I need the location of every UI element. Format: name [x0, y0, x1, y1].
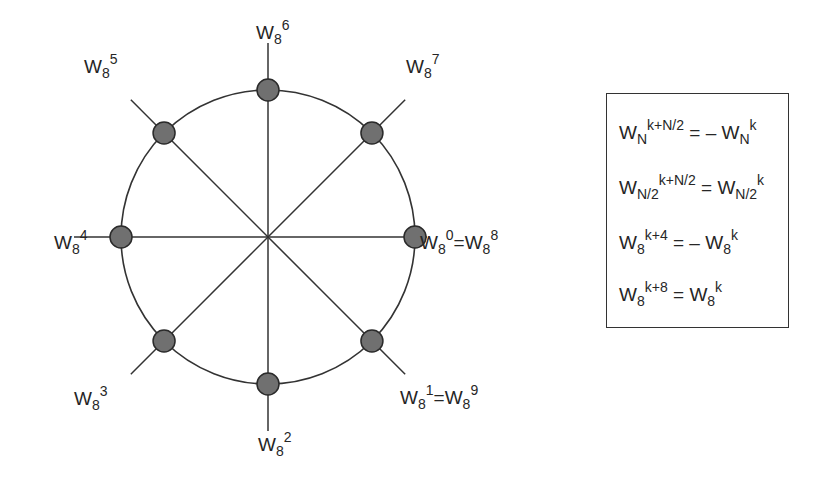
identity-3: W8k+4 = – W8k	[619, 228, 738, 256]
identity-1: WNk+N/2 = – WNk	[619, 118, 757, 146]
identity-4: W8k+8 = W8k	[619, 280, 722, 308]
label-w1: W81=W89	[400, 383, 478, 411]
label-w2: W82	[258, 430, 292, 458]
spoke-w5	[131, 100, 268, 237]
identity-box: WNk+N/2 = – WNk WN/2k+N/2 = WN/2k W8k+4 …	[606, 93, 789, 328]
label-w4: W84	[54, 228, 88, 256]
spoke-w7	[268, 100, 405, 237]
label-w3: W83	[74, 384, 108, 412]
spoke-w1	[268, 237, 405, 374]
node-w5	[153, 122, 175, 144]
spoke-w3	[131, 237, 268, 374]
node-w2	[257, 373, 279, 395]
node-w7	[361, 122, 383, 144]
label-w7: W87	[406, 52, 440, 80]
node-w3	[153, 330, 175, 352]
node-w1	[361, 330, 383, 352]
label-w0: W80=W88	[420, 228, 498, 256]
label-w5: W85	[84, 52, 118, 80]
node-w6	[257, 79, 279, 101]
node-w4	[110, 226, 132, 248]
identity-2: WN/2k+N/2 = WN/2k	[619, 173, 764, 201]
label-w6: W86	[256, 18, 290, 46]
